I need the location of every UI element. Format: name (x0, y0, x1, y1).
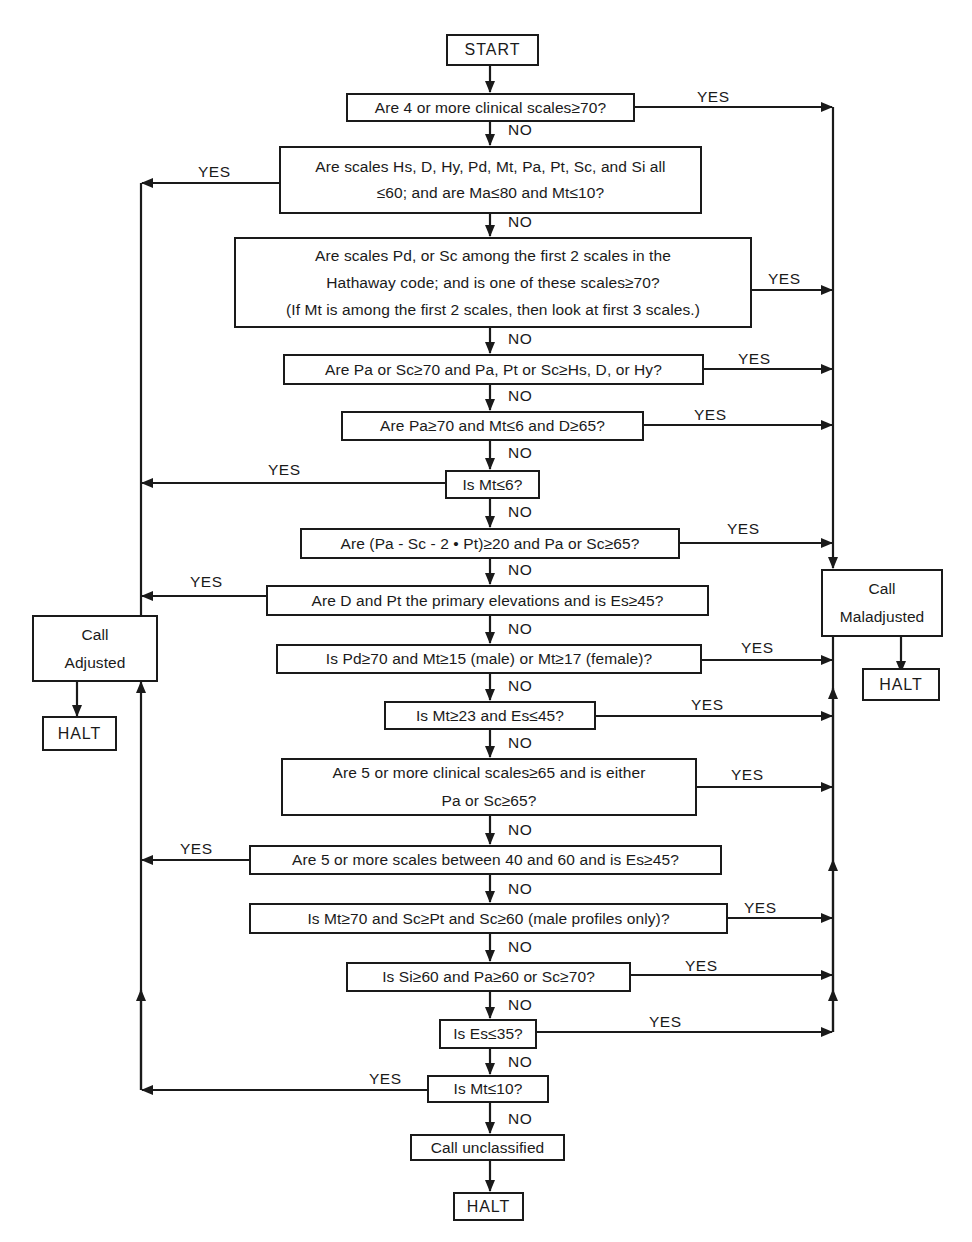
halt-maladjusted: HALT (862, 668, 940, 701)
no-label: NO (508, 996, 532, 1014)
no-label: NO (508, 121, 532, 139)
no-label: NO (508, 561, 532, 579)
decision-text: Is Mt≤6? (462, 472, 522, 498)
decision-text: Is Mt≥23 and Es≤45? (416, 703, 564, 729)
decision-q9: Is Pd≥70 and Mt≥15 (male) or Mt≥17 (fema… (276, 644, 702, 674)
decision-text: Are scales Pd, or Sc among the first 2 s… (315, 242, 671, 269)
yes-label: YES (369, 1070, 402, 1088)
start-label: START (465, 37, 521, 63)
decision-q6: Is Mt≤6? (445, 470, 540, 499)
halt-unclassified: HALT (453, 1192, 524, 1221)
yes-label: YES (198, 163, 231, 181)
yes-label: YES (190, 573, 223, 591)
decision-q5: Are Pa≥70 and Mt≤6 and D≥65? (341, 411, 644, 441)
decision-text: ≤60; and are Ma≤80 and Mt≤10? (377, 180, 604, 206)
decision-text: Is Es≤35? (453, 1021, 523, 1047)
decision-text: Are 5 or more clinical scales≥65 and is … (333, 759, 646, 787)
decision-text: Is Pd≥70 and Mt≥15 (male) or Mt≥17 (fema… (326, 646, 652, 672)
no-label: NO (508, 821, 532, 839)
halt-label: HALT (879, 672, 923, 698)
decision-q12: Are 5 or more scales between 40 and 60 a… (249, 845, 722, 875)
no-label: NO (508, 444, 532, 462)
yes-label: YES (741, 639, 774, 657)
no-label: NO (508, 677, 532, 695)
outcome-text: Call (81, 621, 108, 649)
decision-q8: Are D and Pt the primary elevations and … (266, 585, 709, 616)
start-terminal: START (446, 34, 539, 66)
no-label: NO (508, 387, 532, 405)
yes-label: YES (691, 696, 724, 714)
decision-text: Is Mt≥70 and Sc≥Pt and Sc≥60 (male profi… (307, 906, 669, 932)
decision-q14: Is Si≥60 and Pa≥60 or Sc≥70? (346, 962, 631, 992)
no-label: NO (508, 938, 532, 956)
decision-q3: Are scales Pd, or Sc among the first 2 s… (234, 237, 752, 328)
yes-label: YES (738, 350, 771, 368)
no-label: NO (508, 1110, 532, 1128)
no-label: NO (508, 880, 532, 898)
decision-q1: Are 4 or more clinical scales≥70? (346, 93, 635, 122)
yes-label: YES (697, 88, 730, 106)
decision-q7: Are (Pa - Sc - 2 • Pt)≥20 and Pa or Sc≥6… (300, 528, 680, 559)
no-label: NO (508, 213, 532, 231)
flowchart-canvas: START Are 4 or more clinical scales≥70? … (0, 0, 972, 1242)
decision-text: Are Pa or Sc≥70 and Pa, Pt or Sc≥Hs, D, … (325, 357, 662, 383)
no-label: NO (508, 1053, 532, 1071)
halt-label: HALT (58, 721, 102, 747)
decision-q10: Is Mt≥23 and Es≤45? (384, 701, 596, 730)
yes-label: YES (649, 1013, 682, 1031)
no-label: NO (508, 620, 532, 638)
halt-label: HALT (467, 1194, 511, 1220)
decision-text: Are D and Pt the primary elevations and … (312, 588, 664, 614)
decision-text: Is Mt≤10? (454, 1076, 523, 1102)
yes-label: YES (685, 957, 718, 975)
decision-text: Are Pa≥70 and Mt≤6 and D≥65? (380, 413, 605, 439)
yes-label: YES (727, 520, 760, 538)
halt-adjusted: HALT (42, 716, 117, 751)
yes-label: YES (744, 899, 777, 917)
decision-q4: Are Pa or Sc≥70 and Pa, Pt or Sc≥Hs, D, … (283, 354, 704, 385)
yes-label: YES (180, 840, 213, 858)
yes-label: YES (268, 461, 301, 479)
decision-q16: Is Mt≤10? (427, 1075, 549, 1103)
decision-q2: Are scales Hs, D, Hy, Pd, Mt, Pa, Pt, Sc… (279, 146, 702, 214)
outcome-text: Call (868, 575, 895, 603)
decision-text: Are 5 or more scales between 40 and 60 a… (292, 847, 679, 873)
no-label: NO (508, 734, 532, 752)
decision-text: Is Si≥60 and Pa≥60 or Sc≥70? (382, 964, 595, 990)
yes-label: YES (694, 406, 727, 424)
decision-text: Pa or Sc≥65? (441, 787, 536, 815)
outcome-text: Call unclassified (431, 1135, 545, 1161)
outcome-text: Maladjusted (840, 603, 925, 631)
no-label: NO (508, 503, 532, 521)
decision-text: Are 4 or more clinical scales≥70? (375, 95, 607, 121)
no-label: NO (508, 330, 532, 348)
decision-text: Hathaway code; and is one of these scale… (326, 269, 660, 296)
outcome-maladjusted: Call Maladjusted (821, 569, 943, 637)
decision-q15: Is Es≤35? (439, 1019, 537, 1049)
decision-text: (If Mt is among the first 2 scales, then… (286, 296, 700, 323)
yes-label: YES (768, 270, 801, 288)
decision-q13: Is Mt≥70 and Sc≥Pt and Sc≥60 (male profi… (249, 903, 728, 934)
outcome-adjusted: Call Adjusted (32, 615, 158, 682)
outcome-text: Adjusted (64, 649, 125, 677)
decision-text: Are (Pa - Sc - 2 • Pt)≥20 and Pa or Sc≥6… (341, 531, 640, 557)
decision-text: Are scales Hs, D, Hy, Pd, Mt, Pa, Pt, Sc… (315, 154, 665, 180)
outcome-unclassified: Call unclassified (410, 1134, 565, 1161)
yes-label: YES (731, 766, 764, 784)
decision-q11: Are 5 or more clinical scales≥65 and is … (281, 758, 697, 816)
